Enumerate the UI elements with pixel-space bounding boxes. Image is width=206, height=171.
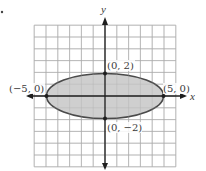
label-point-left: (−5, 0) [9, 83, 44, 94]
label-point-top: (0, 2) [107, 60, 134, 71]
y-axis-up-arrow-icon [102, 17, 108, 25]
label-point-right: (5, 0) [163, 83, 190, 94]
marker-dot [1, 11, 3, 13]
ellipse-diagram: y x (0, 2) (0, −2) (−5, 0) (5, 0) [0, 0, 206, 171]
label-point-bottom: (0, −2) [107, 122, 142, 133]
point-left [45, 94, 49, 98]
y-axis-label: y [100, 3, 106, 15]
point-right [162, 94, 166, 98]
point-top [103, 72, 107, 76]
point-bottom [103, 117, 107, 121]
